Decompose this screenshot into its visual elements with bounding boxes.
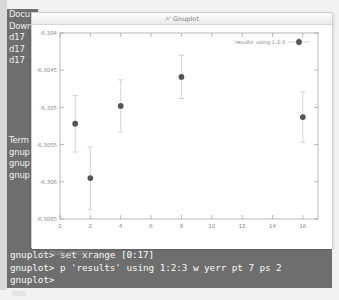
errorbar-plot: -6.304-6.3045-6.305-6.3055-6.306-6.30650… — [32, 25, 332, 249]
terminal-line-2: gnuplot> p 'results' using 1:2:3 w yerr … — [10, 262, 332, 275]
svg-text:-6.305: -6.305 — [40, 105, 57, 111]
svg-text:10: 10 — [208, 223, 215, 229]
left-edge-strip — [0, 0, 7, 290]
svg-text:4: 4 — [119, 223, 123, 229]
svg-text:12: 12 — [239, 223, 246, 229]
svg-text:-6.3055: -6.3055 — [36, 142, 57, 148]
svg-text:-6.306: -6.306 — [40, 179, 58, 185]
desktop-artifact — [12, 291, 26, 296]
svg-text:14: 14 — [269, 223, 276, 229]
window-titlebar[interactable]: Gnuplot — [32, 13, 332, 25]
gnuplot-icon — [165, 16, 171, 22]
svg-text:-6.3045: -6.3045 — [36, 67, 57, 73]
svg-text:16: 16 — [299, 223, 306, 229]
svg-text:-6.3065: -6.3065 — [36, 216, 57, 222]
coordinate-readout: 11.7528, -6.30573 — [40, 250, 92, 256]
window-title: Gnuplot — [173, 15, 199, 23]
svg-text:2: 2 — [89, 223, 92, 229]
svg-text:8: 8 — [180, 223, 184, 229]
plot-canvas[interactable]: -6.304-6.3045-6.305-6.3055-6.306-6.30650… — [32, 25, 332, 249]
svg-text:6: 6 — [149, 223, 153, 229]
terminal-prompt[interactable]: gnuplot> — [10, 274, 332, 287]
svg-text:'results' using 1:2:3: 'results' using 1:2:3 — [234, 39, 285, 46]
svg-text:0: 0 — [58, 223, 62, 229]
gnuplot-window[interactable]: Gnuplot -6.304-6.3045-6.305-6.3055-6.306… — [31, 12, 333, 248]
svg-text:-6.304: -6.304 — [40, 30, 58, 36]
